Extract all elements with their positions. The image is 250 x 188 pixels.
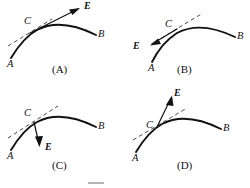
label-a-start: A: [7, 59, 13, 70]
label-b-point: C: [165, 19, 172, 30]
caption-b: (B): [177, 64, 192, 75]
caption-a: (A): [52, 64, 67, 75]
label-d-start: A: [132, 153, 138, 164]
vector-line-a: [30, 9, 78, 33]
cropped-caption-fragment: [88, 182, 104, 184]
vector-arrowhead-d: [166, 96, 174, 107]
curve-path-c: [11, 117, 96, 150]
figure-four-panel-vector-diagram: A C B E (A) A C B E (B) A C B E (C): [0, 0, 250, 188]
panel-d: A C B E (D): [125, 94, 250, 182]
tangent-line-d: [133, 108, 187, 140]
label-a-end: B: [98, 29, 104, 40]
label-c-end: B: [98, 121, 104, 132]
label-b-end: B: [237, 31, 243, 42]
label-d-end: B: [223, 123, 229, 134]
panel-b: A C B E (B): [125, 0, 250, 88]
caption-c: (C): [52, 160, 67, 171]
label-b-vector: E: [133, 41, 140, 51]
curve-path-a: [11, 25, 96, 58]
vector-arrowhead-a: [69, 8, 80, 15]
label-c-vector: E: [45, 142, 52, 152]
label-c-start: A: [7, 151, 13, 162]
caption-d: (D): [177, 160, 192, 171]
panel-c: A C B E (C): [0, 94, 125, 182]
label-d-point: C: [146, 120, 153, 131]
label-d-vector: E: [174, 88, 181, 98]
label-a-point: C: [24, 16, 31, 27]
curve-path-b: [152, 27, 235, 62]
label-c-point: C: [24, 108, 31, 119]
label-a-vector: E: [84, 1, 91, 11]
panel-a: A C B E (A): [0, 0, 125, 88]
tangent-line-c: [8, 106, 58, 138]
label-b-start: A: [148, 63, 154, 74]
vector-arrowhead-c: [35, 136, 43, 147]
